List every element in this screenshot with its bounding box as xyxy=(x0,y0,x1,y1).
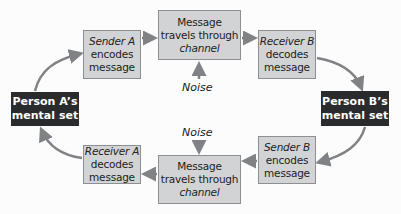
channel-bottom-line1: Message xyxy=(177,160,222,173)
channel-bottom-box: Message travels through channel xyxy=(158,155,241,204)
channel-top-box: Message travels through channel xyxy=(158,10,241,60)
person-a-mental-set: Person A’s mental set xyxy=(11,92,79,126)
receiver-b-line3: message xyxy=(264,61,310,74)
receiver-a-line3: message xyxy=(89,171,135,184)
person-b-line2: mental set xyxy=(322,109,388,123)
receiver-a-label: Receiver A xyxy=(85,145,139,158)
communication-model-diagram: Sender A encodes message Message travels… xyxy=(0,0,401,214)
arrow-receivera-to-persona xyxy=(42,131,82,158)
sender-b-line3: message xyxy=(264,167,310,180)
sender-b-box: Sender B encodes message xyxy=(258,136,316,184)
person-a-line1: Person A’s xyxy=(13,95,78,109)
channel-bottom-line2: travels through xyxy=(161,173,239,186)
sender-a-label: Sender A xyxy=(89,35,135,48)
sender-a-line2: encodes xyxy=(91,48,134,61)
sender-a-line3: message xyxy=(89,61,135,74)
sender-b-line2: encodes xyxy=(266,154,309,167)
receiver-a-line2: decodes xyxy=(91,158,134,171)
receiver-b-line2: decodes xyxy=(266,48,309,61)
channel-top-line3: channel xyxy=(179,42,219,55)
receiver-a-box: Receiver A decodes message xyxy=(83,145,141,184)
sender-a-box: Sender A encodes message xyxy=(83,30,141,79)
noise-top-label: Noise xyxy=(182,81,213,94)
sender-b-label: Sender B xyxy=(264,141,310,154)
person-b-mental-set: Person B’s mental set xyxy=(321,91,389,126)
person-a-line2: mental set xyxy=(12,109,78,123)
channel-top-line2: travels through xyxy=(161,29,239,42)
channel-bottom-line3: channel xyxy=(179,186,219,199)
arrow-persona-to-sendera xyxy=(35,54,79,91)
channel-top-line1: Message xyxy=(177,16,222,29)
noise-bottom-label: Noise xyxy=(182,126,213,139)
person-b-line1: Person B’s xyxy=(322,95,388,109)
arrow-personb-to-senderb xyxy=(320,127,365,162)
receiver-b-label: Receiver B xyxy=(260,35,314,48)
arrow-receiverb-to-personb xyxy=(317,58,361,87)
receiver-b-box: Receiver B decodes message xyxy=(258,30,316,79)
